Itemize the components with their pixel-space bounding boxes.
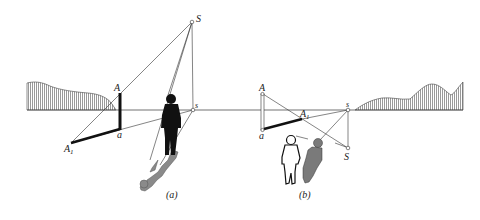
caption-b: (b)	[299, 189, 311, 201]
label-A1-a: A1	[63, 143, 74, 156]
label-A-b: A	[258, 82, 266, 93]
label-A-a: A	[113, 82, 121, 93]
point-S-b	[346, 146, 350, 150]
label-s-b: s	[346, 100, 349, 109]
panel-b: A a A1 s S (b)	[258, 82, 463, 201]
label-a-a: a	[117, 129, 122, 140]
person-shadow-head-a	[140, 180, 148, 188]
ray-shadow-to-S	[335, 143, 346, 147]
label-a-b: a	[259, 130, 264, 141]
person-shadow-b	[303, 139, 323, 184]
shadow-aA1-b	[264, 119, 302, 129]
label-S-b: S	[344, 151, 349, 162]
terrain-left	[27, 82, 116, 110]
point-S-a	[190, 20, 194, 24]
label-s-a: s	[195, 101, 198, 110]
caption-a: (a)	[166, 189, 178, 201]
terrain-right	[355, 82, 463, 110]
vertical-S-to-s	[192, 22, 193, 110]
pole-Aa-b	[261, 94, 264, 130]
shadow-construction-diagram: S s A a A1 (a)	[0, 0, 480, 220]
person-figure-a	[161, 94, 181, 155]
person-figure-b	[282, 136, 300, 185]
panel-a: S s A a A1 (a)	[27, 13, 201, 201]
label-S-a: S	[196, 13, 201, 24]
ray-A-to-S	[263, 94, 348, 148]
ray-figure-head-b	[296, 136, 308, 139]
